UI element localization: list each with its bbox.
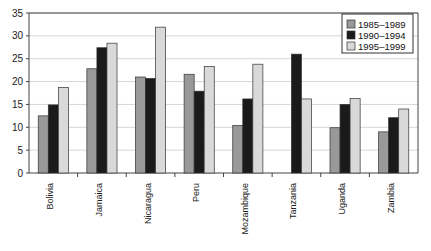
bar (291, 54, 301, 173)
x-axis-category-label: Mozambique (240, 183, 250, 235)
x-axis-category-label: Uganda (337, 183, 347, 215)
bar (146, 78, 156, 173)
y-axis-tick-label: 10 (12, 122, 24, 133)
bar (243, 99, 253, 173)
x-axis-category-label: Jamaica (94, 183, 104, 217)
y-axis-tick-label: 35 (12, 8, 24, 19)
x-axis-category-label: Bolivia (45, 183, 55, 210)
legend-swatch (347, 20, 355, 28)
bar (253, 64, 263, 173)
bar (156, 27, 166, 173)
bar (97, 48, 107, 173)
bar (233, 125, 243, 173)
bar (135, 77, 145, 173)
y-axis-tick-label: 25 (12, 53, 24, 64)
bar (399, 109, 409, 173)
y-axis-tick-label: 0 (17, 168, 23, 179)
bar (194, 91, 204, 173)
bar (58, 88, 68, 173)
bar (301, 99, 311, 173)
bar (204, 66, 214, 173)
y-axis-tick-label: 20 (12, 76, 24, 87)
bar (379, 132, 389, 173)
bar-chart: 05101520253035 BoliviaJamaicaNicaraguaPe… (0, 0, 431, 251)
y-axis-tick-label: 30 (12, 30, 24, 41)
bar (330, 128, 340, 173)
legend: 1985–19891990–19941995–1999 (342, 14, 413, 53)
bar (38, 116, 48, 173)
x-axis-category-label: Peru (191, 183, 201, 202)
legend-label: 1985–1989 (358, 19, 406, 30)
x-axis-category-label: Tanzania (288, 183, 298, 219)
x-axis-category-label: Zambia (386, 183, 396, 213)
chart-canvas: 05101520253035 BoliviaJamaicaNicaraguaPe… (0, 0, 431, 251)
bar (107, 43, 117, 173)
bar (389, 118, 399, 173)
y-axis-tick-label: 15 (12, 99, 24, 110)
bar (184, 74, 194, 173)
legend-label: 1995–1999 (358, 41, 406, 52)
x-axis-category-label: Nicaragua (143, 183, 153, 224)
y-axis-tick-label: 5 (17, 145, 23, 156)
bar (340, 104, 350, 173)
legend-swatch (347, 31, 355, 39)
bar (48, 105, 58, 173)
legend-swatch (347, 42, 355, 50)
bar (87, 69, 97, 173)
bar (350, 98, 360, 173)
legend-label: 1990–1994 (358, 30, 406, 41)
